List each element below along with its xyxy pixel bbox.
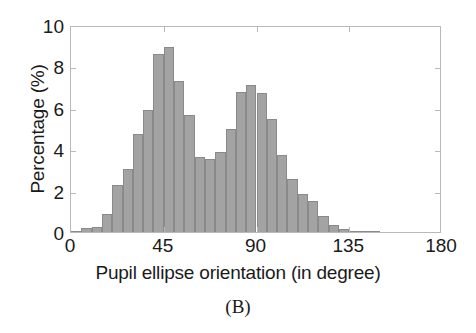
- histogram-bar: [143, 110, 153, 232]
- histogram-bar: [133, 134, 143, 232]
- histogram-bars: [71, 27, 440, 232]
- histogram-bar: [339, 229, 349, 232]
- histogram-bar: [287, 179, 297, 232]
- y-tick-label: 2: [22, 182, 64, 201]
- y-axis-tick-mark: [71, 68, 76, 69]
- histogram-bar: [102, 214, 112, 232]
- x-axis-tick-mark-top: [164, 27, 165, 32]
- histogram-bar: [349, 231, 359, 232]
- x-axis-tick-mark-top: [349, 27, 350, 32]
- histogram-bar: [184, 115, 194, 232]
- y-tick-label: 6: [22, 99, 64, 118]
- histogram-bar: [81, 228, 91, 232]
- x-tick-label: 0: [65, 236, 76, 255]
- panel-caption: (B): [0, 296, 476, 318]
- x-axis-tick-mark: [349, 227, 350, 232]
- histogram-bar: [123, 169, 133, 232]
- histogram-bar: [329, 225, 339, 232]
- x-axis-tick-mark-top: [257, 27, 258, 32]
- histogram-bar: [205, 159, 215, 232]
- x-tick-label: 180: [425, 236, 457, 255]
- y-tick-label: 10: [22, 17, 64, 36]
- figure-panel-b: Percentage (%) 0246810 04590135180 Pupil…: [0, 0, 476, 333]
- x-axis-tick-mark: [164, 227, 165, 232]
- x-axis-tick-mark: [257, 227, 258, 232]
- histogram-bar: [370, 231, 380, 232]
- y-axis-tick-mark: [71, 151, 76, 152]
- histogram-bar: [298, 194, 308, 232]
- histogram-bar: [246, 85, 256, 232]
- histogram-bar: [257, 93, 267, 232]
- y-axis-tick-mark-right: [435, 68, 440, 69]
- y-tick-label: 0: [22, 224, 64, 243]
- y-axis-tick-mark: [71, 193, 76, 194]
- histogram-bar: [267, 119, 277, 232]
- histogram-bar: [215, 152, 225, 232]
- x-tick-label: 45: [152, 236, 173, 255]
- histogram-bar: [277, 155, 287, 232]
- x-axis-tick-labels: 04590135180: [70, 236, 441, 260]
- histogram-bar: [318, 216, 328, 232]
- y-axis-tick-mark-right: [435, 151, 440, 152]
- y-tick-label: 8: [22, 58, 64, 77]
- histogram-bar: [112, 185, 122, 232]
- y-tick-label: 4: [22, 141, 64, 160]
- histogram-bar: [360, 231, 370, 232]
- histogram-bar: [236, 92, 246, 232]
- histogram-bar: [92, 227, 102, 232]
- x-tick-label: 90: [245, 236, 266, 255]
- x-axis-title: Pupil ellipse orientation (in degree): [0, 262, 476, 284]
- x-tick-label: 135: [332, 236, 364, 255]
- y-axis-tick-mark: [71, 110, 76, 111]
- histogram-bar: [226, 129, 236, 233]
- histogram-bar: [71, 231, 81, 232]
- y-axis-tick-mark-right: [435, 110, 440, 111]
- histogram-bar: [164, 47, 174, 232]
- y-axis-tick-mark-right: [435, 193, 440, 194]
- histogram-bar: [308, 201, 318, 232]
- plot-area: [70, 26, 441, 233]
- histogram-bar: [195, 157, 205, 232]
- y-axis-tick-labels: 0246810: [22, 26, 64, 234]
- histogram-bar: [153, 54, 163, 232]
- histogram-bar: [174, 81, 184, 232]
